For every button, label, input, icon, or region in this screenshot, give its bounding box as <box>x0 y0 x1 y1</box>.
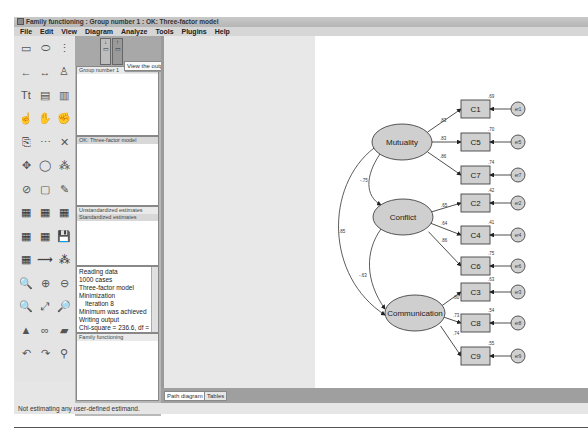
path-diagram: -.75-.63.85.83C1.69er1.83C5.70er5.86C7.7… <box>315 36 588 388</box>
view-output-button[interactable]: ↑▭ <box>112 38 123 65</box>
r-squared-label: .42 <box>488 188 495 193</box>
save-icon[interactable]: 💾 <box>55 227 73 245</box>
menu-view[interactable]: View <box>61 27 77 36</box>
groups-pane: Group number 1 <box>76 66 159 136</box>
move-parameters-icon[interactable]: ⊘ <box>17 180 35 198</box>
log-line: Reading data <box>79 268 156 276</box>
title-bar: Family functioning : Group number 1 : OK… <box>14 17 588 27</box>
zoom-in-icon[interactable]: ⊕ <box>36 274 54 292</box>
redo-icon[interactable]: ↷ <box>36 345 54 363</box>
view-text-icon[interactable]: ▦ <box>17 227 35 245</box>
covariance-label: -.63 <box>359 273 367 278</box>
observed-variable-label: C4 <box>470 231 481 240</box>
tab-path-diagram[interactable]: Path diagram <box>164 391 206 401</box>
data-files-icon[interactable]: ▦ <box>17 204 35 222</box>
r-squared-label: .74 <box>488 160 495 165</box>
toolbox: ▭⬭⋮←↔♙Tt▤▥☝✋✊⎘⋯✕✥◯⁂⊘▢✎▦▦▦▦▦💾▦⟿⁂🔍⊕⊖🔍⤢🔎▲∞▰… <box>14 36 74 381</box>
model-item[interactable]: OK: Three-factor model <box>77 137 158 144</box>
specification-search-icon[interactable]: ⚲ <box>55 345 73 363</box>
log-line: 1000 cases <box>79 276 156 284</box>
draw-path-icon[interactable]: ← <box>17 63 35 81</box>
covariance-label: -.75 <box>360 178 368 183</box>
observed-variable-label: C7 <box>470 171 481 180</box>
select-all-icon[interactable]: ✋ <box>36 110 54 128</box>
loading-path <box>429 232 462 266</box>
error-variable-label: er8 <box>515 321 522 326</box>
list-variables-model-icon[interactable]: ▤ <box>36 86 54 104</box>
r-squared-label: .70 <box>488 127 495 132</box>
fit-to-page-icon[interactable]: ⤢ <box>36 298 54 316</box>
zoom-out-icon[interactable]: ⊖ <box>55 274 73 292</box>
loading-label: .86 <box>440 154 447 159</box>
error-variable-label: er3 <box>515 290 522 295</box>
scroll-icon[interactable]: ▢ <box>36 180 54 198</box>
menu-analyze[interactable]: Analyze <box>121 27 147 36</box>
add-unique-variable-icon[interactable]: ♙ <box>55 63 73 81</box>
deselect-all-icon[interactable]: ✊ <box>55 110 73 128</box>
tab-tables[interactable]: Tables <box>204 391 227 401</box>
r-squared-label: .69 <box>488 94 495 99</box>
multiple-group-icon[interactable]: ∞ <box>36 321 54 339</box>
change-shape-icon[interactable]: ✥ <box>17 157 35 175</box>
files-pane: Family functioning <box>76 333 159 401</box>
r-squared-label: .41 <box>488 220 495 225</box>
unstandardized-estimates-item[interactable]: Unstandardized estimates <box>77 207 158 214</box>
log-line: Three-factor model <box>79 284 156 292</box>
touch-up-icon[interactable]: ✎ <box>55 180 73 198</box>
standardized-estimates-item[interactable]: Standardized estimates <box>77 214 158 221</box>
latent-variable-label: Communication <box>387 309 443 318</box>
rotate-indicators-icon[interactable]: ◯ <box>36 157 54 175</box>
draw-observed-icon[interactable]: ▭ <box>17 39 35 57</box>
covariance-path <box>339 148 385 315</box>
list-variables-dataset-icon[interactable]: ▥ <box>55 86 73 104</box>
covariance-label: .85 <box>339 229 346 234</box>
latent-variable-label: Mutuality <box>386 138 418 147</box>
draw-indicator-icon[interactable]: ⋮ <box>55 39 73 57</box>
calculate-estimates-icon[interactable]: ▦ <box>55 204 73 222</box>
menu-plugins[interactable]: Plugins <box>181 27 206 36</box>
draw-unobserved-icon[interactable]: ⬭ <box>36 39 54 57</box>
draw-covariance-icon[interactable]: ↔ <box>36 63 54 81</box>
view-input-button[interactable]: ↓▭ <box>100 38 111 65</box>
move-icon[interactable]: ⋯ <box>36 133 54 151</box>
object-properties-icon[interactable]: ▦ <box>17 251 35 269</box>
observed-variable-label: C9 <box>470 352 481 361</box>
bayesian-icon[interactable]: ▲ <box>17 321 35 339</box>
duplicate-icon[interactable]: ⎘ <box>17 133 35 151</box>
covariance-path <box>369 229 385 309</box>
canvas-margin <box>164 36 315 388</box>
menu-file[interactable]: File <box>20 27 32 36</box>
select-one-icon[interactable]: ☝ <box>17 110 35 128</box>
log-scrollbar[interactable] <box>151 267 158 332</box>
reflect-indicators-icon[interactable]: ⁂ <box>55 157 73 175</box>
figure-caption-icon[interactable]: Tt <box>17 86 35 104</box>
path-diagram-canvas[interactable]: -.75-.63.85.83C1.69er1.83C5.70er5.86C7.7… <box>315 36 588 388</box>
loupe-icon[interactable]: 🔎 <box>55 298 73 316</box>
analysis-properties-icon[interactable]: ▦ <box>36 204 54 222</box>
observed-variable-label: C8 <box>470 319 481 328</box>
menu-edit[interactable]: Edit <box>40 27 53 36</box>
undo-icon[interactable]: ↶ <box>17 345 35 363</box>
app-icon <box>17 18 24 25</box>
window-title: Family functioning : Group number 1 : OK… <box>26 18 218 25</box>
computation-log-pane: Reading data 1000 cases Three-factor mod… <box>76 266 159 333</box>
menu-diagram[interactable]: Diagram <box>85 27 113 36</box>
zoom-selected-icon[interactable]: 🔍 <box>17 274 35 292</box>
preserve-symmetries-icon[interactable]: ⁂ <box>55 251 73 269</box>
drag-properties-icon[interactable]: ⟿ <box>36 251 54 269</box>
loading-label: .65 <box>441 203 448 208</box>
file-item[interactable]: Family functioning <box>77 334 158 341</box>
divider <box>14 427 588 428</box>
copy-to-clipboard-icon[interactable]: ▦ <box>36 227 54 245</box>
error-variable-label: er7 <box>515 173 522 178</box>
r-squared-label: .55 <box>488 341 495 346</box>
r-squared-label: .63 <box>488 277 495 282</box>
print-icon[interactable]: ▰ <box>55 321 73 339</box>
zoom-page-icon[interactable]: 🔍 <box>17 298 35 316</box>
menu-tools[interactable]: Tools <box>155 27 173 36</box>
observed-variable-label: C1 <box>470 105 481 114</box>
estimates-pane: Unstandardized estimates Standardized es… <box>76 206 159 266</box>
r-squared-label: .54 <box>488 308 495 313</box>
menu-help[interactable]: Help <box>215 27 230 36</box>
erase-icon[interactable]: ✕ <box>55 133 73 151</box>
